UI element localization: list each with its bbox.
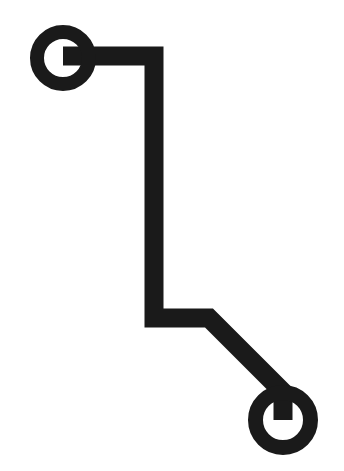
connector-pictogram [0, 0, 344, 471]
glyph-canvas [0, 0, 344, 471]
